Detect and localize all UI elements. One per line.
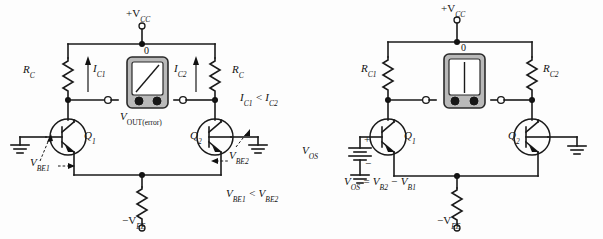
current-arrow-ic2-head — [193, 56, 199, 65]
rc-left-sub: C — [30, 71, 35, 80]
rc2-letter: R — [543, 62, 550, 74]
note-vbe2-sub: BE2 — [265, 195, 278, 204]
rc-left-letter: R — [23, 63, 30, 75]
meter-zero-right: 0 — [461, 42, 466, 53]
rc-right-sub: C — [239, 71, 244, 80]
eq-minus: − V — [388, 175, 408, 187]
note-vbe1-letter: V — [226, 187, 233, 199]
eq-equals: = V — [360, 175, 380, 187]
label-rc-right: RC — [232, 64, 244, 75]
q1r-letter: Q — [404, 129, 412, 141]
voltmeter-left-jack-b — [153, 97, 161, 105]
vos-sub: OS — [309, 152, 318, 161]
label-q2-left: Q2 — [190, 130, 202, 141]
label-vos-source: VOS — [302, 145, 318, 156]
rc1-letter: R — [361, 62, 368, 74]
resistor-rc2 — [527, 57, 537, 99]
note-vbe1-sub: BE1 — [233, 195, 246, 204]
q2-letter: Q — [190, 129, 198, 141]
q2-sub: 2 — [198, 137, 202, 146]
resistor-rc-right — [210, 58, 220, 100]
meter-zero-left: 0 — [144, 45, 149, 56]
right-circuit-schematic — [300, 0, 603, 239]
q1-sub: 1 — [92, 137, 96, 146]
vout-letter: V — [120, 110, 127, 122]
label-rc-left: RC — [23, 64, 35, 75]
resistor-rc1 — [383, 57, 393, 99]
vbe2-sub: BE2 — [236, 157, 249, 166]
vee-sub-left: EE — [136, 222, 145, 231]
eq-vos-letter: V — [344, 175, 351, 187]
eq-vb1-sub: B1 — [408, 183, 416, 192]
note-vbe-inequality: VBE1 < VBE2 — [226, 188, 278, 199]
transistor-q2-collector-lead — [209, 122, 221, 132]
label-vee-right: −VEE — [437, 215, 460, 226]
vos-minus-sign: − — [365, 158, 371, 169]
label-ic1: IC1 — [93, 63, 105, 74]
voltmeter-right-jack-b — [470, 97, 478, 105]
label-vcc-left: +VCC — [126, 8, 150, 19]
q2r-letter: Q — [508, 129, 516, 141]
voltmeter-right-jack-a — [451, 97, 459, 105]
transistor-q1r-collector-lead — [382, 122, 394, 132]
q1r-sub: 1 — [412, 137, 416, 146]
label-rc1-right: RC1 — [361, 63, 377, 74]
ic2-sub: C2 — [178, 70, 187, 79]
vcc-sub-right: CC — [455, 10, 465, 19]
ic1-sub: C1 — [97, 70, 106, 79]
vbe1-sub: BE1 — [37, 164, 50, 173]
vos-letter: V — [302, 144, 309, 156]
resistor-rc-left — [63, 58, 73, 100]
label-vee-left: −VEE — [122, 215, 145, 226]
eq-vb2-sub: B2 — [380, 183, 388, 192]
note-ic-op: < I — [252, 91, 269, 103]
vcc-sign-left: +V — [126, 7, 140, 19]
q2r-sub: 2 — [516, 137, 520, 146]
transistor-q1-collector-lead — [62, 122, 74, 132]
vcc-node-right — [454, 39, 460, 45]
vos-plus-sign: + — [364, 134, 370, 145]
figure-canvas: +VCC RC RC IC1 IC2 0 VOUT(error) Q1 Q2 V… — [0, 0, 603, 239]
vee-sub-right: EE — [451, 222, 460, 231]
vee-sign-right: −V — [437, 214, 451, 226]
voltmeter-left-jack-a — [135, 97, 143, 105]
label-q2-right: Q2 — [508, 130, 520, 141]
vbe1-letter: V — [30, 156, 37, 168]
vcc-sub-left: CC — [140, 15, 150, 24]
rc1-sub: C1 — [368, 70, 377, 79]
label-q1-right: Q1 — [404, 130, 416, 141]
rc-right-letter: R — [232, 63, 239, 75]
rc2-sub: C2 — [550, 70, 559, 79]
note-ic2-sub: C2 — [269, 99, 278, 108]
label-q1-left: Q1 — [84, 130, 96, 141]
label-ic2: IC2 — [174, 63, 186, 74]
vbe2-pointer-emitter-head — [211, 158, 218, 164]
label-rc2-right: RC2 — [543, 63, 559, 74]
note-ic1-sub: C1 — [244, 99, 253, 108]
vbe2-letter: V — [229, 149, 236, 161]
note-vbe-op: < V — [246, 187, 266, 199]
label-vcc-right: +VCC — [441, 3, 465, 14]
label-vbe1: VBE1 — [30, 157, 50, 168]
label-vout-error: VOUT(error) — [120, 111, 162, 122]
eq-vos-sub: OS — [351, 183, 360, 192]
note-current-inequality: IC1 < IC2 — [240, 92, 278, 103]
vout-sub: OUT(error) — [127, 118, 162, 127]
vcc-sign-right: +V — [441, 2, 455, 14]
label-vbe2: VBE2 — [229, 150, 249, 161]
q1-letter: Q — [84, 129, 92, 141]
equation-vos: VOS = VB2 − VB1 — [344, 176, 416, 187]
current-arrow-ic1-head — [85, 56, 91, 65]
transistor-q2r-collector-lead — [526, 122, 538, 132]
vee-sign-left: −V — [122, 214, 136, 226]
